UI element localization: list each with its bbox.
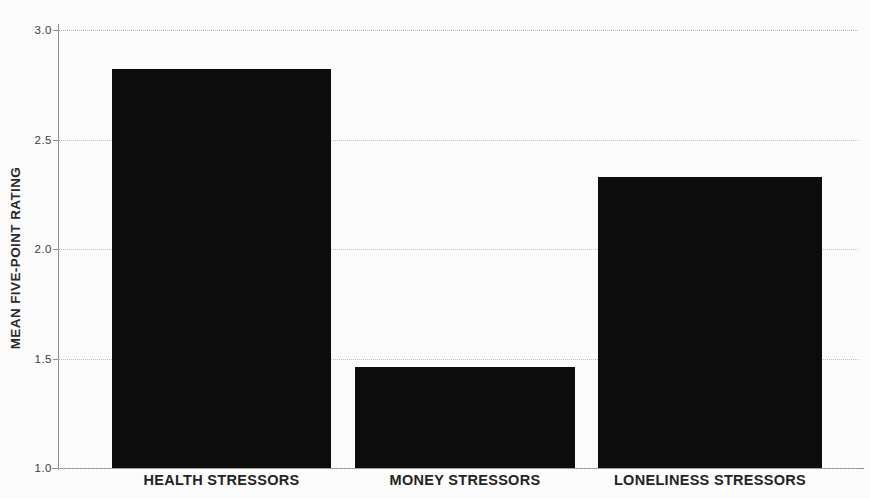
- bar: [112, 69, 331, 468]
- y-gridline: [58, 468, 858, 470]
- y-axis-tick-label: 3.0: [6, 24, 52, 36]
- x-axis-category-label: MONEY STRESSORS: [325, 472, 605, 488]
- y-axis-tick-label: 1.5: [6, 353, 52, 365]
- plot-area: [58, 30, 858, 468]
- y-axis-tick-label: 2.0: [6, 243, 52, 255]
- y-axis-tick-mark: [53, 249, 58, 250]
- y-axis-tick-mark: [53, 359, 58, 360]
- y-axis-tick-mark: [53, 468, 58, 469]
- x-axis-category-labels: HEALTH STRESSORSMONEY STRESSORSLONELINES…: [0, 472, 870, 498]
- x-axis-category-label: HEALTH STRESSORS: [82, 472, 361, 488]
- bar-chart-figure: MEAN FIVE-POINT RATING 1.01.52.02.53.0 H…: [0, 0, 870, 498]
- y-axis-tick-mark: [53, 30, 58, 31]
- x-axis-category-label: LONELINESS STRESSORS: [568, 472, 852, 488]
- y-gridline: [58, 30, 858, 32]
- y-axis-tick-label: 2.5: [6, 134, 52, 146]
- y-axis-tick-labels: 1.01.52.02.53.0: [0, 0, 52, 498]
- bar: [598, 177, 822, 468]
- bar: [355, 367, 575, 468]
- y-axis-tick-mark: [53, 140, 58, 141]
